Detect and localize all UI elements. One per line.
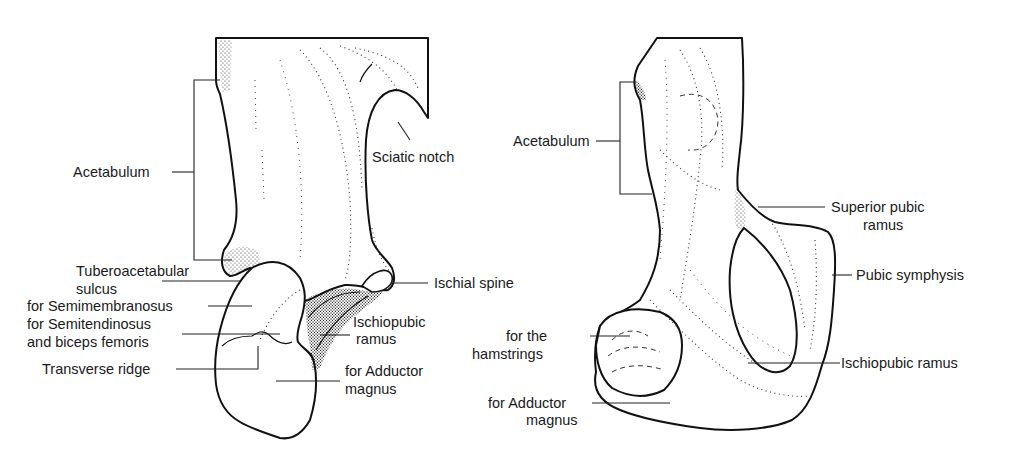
left-ischiopubic-ramus-label-2: ramus xyxy=(356,331,396,347)
semitendinosus-label-1: for Semitendinosus xyxy=(27,316,151,332)
semimembranosus-label: for Semimembranosus xyxy=(27,298,173,314)
right-acetabulum-label: Acetabulum xyxy=(513,133,590,149)
left-adductor-magnus-label-1: for Adductor xyxy=(345,363,423,379)
anatomical-diagram: Acetabulum Sciatic notch Tuberoacetabula… xyxy=(0,0,1017,454)
tuberoacetabular-sulcus-label-2: sulcus xyxy=(76,281,117,297)
transverse-ridge-label: Transverse ridge xyxy=(42,361,150,377)
left-ischial-tuberosity xyxy=(215,262,316,438)
right-adductor-magnus-label-1: for Adductor xyxy=(488,395,566,411)
superior-pubic-ramus-label-1: Superior pubic xyxy=(831,199,925,215)
right-bone-view xyxy=(590,38,852,430)
hamstrings-tuberosity xyxy=(596,309,682,395)
superior-pubic-ramus-label-2: ramus xyxy=(863,217,903,233)
semitendinosus-label-2: and biceps femoris xyxy=(27,334,149,350)
pubic-symphysis-label: Pubic symphysis xyxy=(856,267,964,283)
tuberoacetabular-sulcus-label-1: Tuberoacetabular xyxy=(76,263,189,279)
left-acetabulum-label: Acetabulum xyxy=(73,164,150,180)
hamstrings-label-2: hamstrings xyxy=(472,346,543,362)
sciatic-notch-label: Sciatic notch xyxy=(372,149,454,165)
right-adductor-magnus-label-2: magnus xyxy=(526,412,578,428)
left-ischiopubic-ramus-label-1: Ischiopubic xyxy=(353,314,426,330)
ischial-spine-label: Ischial spine xyxy=(434,275,514,291)
left-adductor-magnus-label-2: magnus xyxy=(345,381,397,397)
hamstrings-label-1: for the xyxy=(506,328,547,344)
right-ischiopubic-ramus-label: Ischiopubic ramus xyxy=(841,355,958,371)
